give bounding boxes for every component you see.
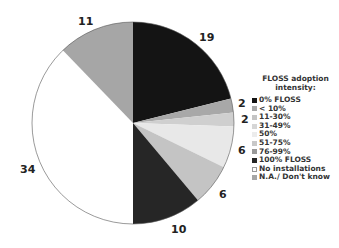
slice-label-no-installations: 34 bbox=[20, 164, 35, 175]
legend-swatch-icon bbox=[252, 149, 257, 154]
legend: FLOSS adoption intensity: 0% FLOSS < 10%… bbox=[252, 74, 339, 182]
legend-label: N.A./ Don't know bbox=[259, 173, 330, 182]
legend-swatch-icon bbox=[252, 175, 257, 180]
slice-label-31-49: 6 bbox=[238, 145, 246, 156]
legend-swatch-icon bbox=[252, 141, 257, 146]
legend-items: 0% FLOSS < 10% 11-30% 31-49% 50% 51-75% … bbox=[252, 96, 339, 182]
pie-slices bbox=[32, 22, 234, 224]
legend-swatch-icon bbox=[252, 115, 257, 120]
legend-swatch-icon bbox=[252, 158, 257, 163]
legend-title: FLOSS adoption intensity: bbox=[252, 74, 339, 92]
legend-swatch-icon bbox=[252, 106, 257, 111]
slice-label-0-floss: 19 bbox=[199, 32, 214, 43]
legend-item-na: N.A./ Don't know bbox=[252, 173, 339, 182]
slice-label-51-75: 6 bbox=[219, 189, 227, 200]
legend-title-line2: intensity: bbox=[252, 83, 339, 92]
slice-label-100-floss: 10 bbox=[171, 224, 186, 235]
legend-swatch-icon bbox=[252, 167, 257, 172]
slice-label-na: 11 bbox=[78, 16, 93, 27]
legend-swatch-icon bbox=[252, 98, 257, 103]
slice-label-lt10: 2 bbox=[238, 98, 246, 109]
legend-swatch-icon bbox=[252, 132, 257, 137]
slice-label-11-30: 2 bbox=[241, 114, 249, 125]
legend-title-line1: FLOSS adoption bbox=[252, 74, 339, 83]
legend-swatch-icon bbox=[252, 124, 257, 129]
